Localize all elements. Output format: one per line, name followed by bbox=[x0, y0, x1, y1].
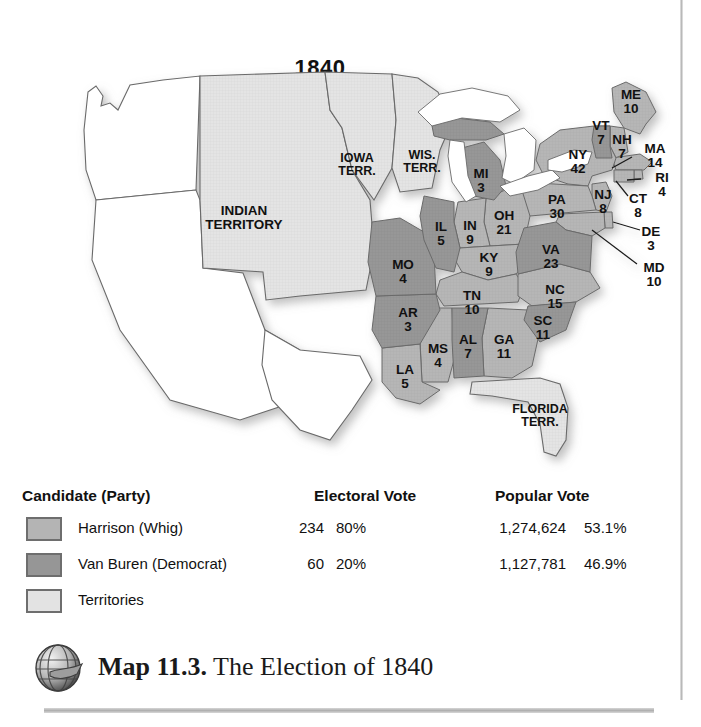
vanburen-swatch bbox=[26, 553, 62, 577]
state-TN bbox=[436, 272, 524, 306]
legend-header-candidate: Candidate (Party) bbox=[22, 487, 150, 505]
caption-label: Map 11.3. bbox=[98, 652, 207, 681]
harrison-swatch bbox=[26, 517, 62, 541]
legend-row-territories: Territories bbox=[22, 585, 682, 621]
election-map: 1840 bbox=[0, 0, 701, 485]
vanburen-electoral-pct: 20% bbox=[336, 555, 366, 572]
map-landmass bbox=[84, 72, 656, 456]
legend-header-row: Candidate (Party) Electoral Vote Popular… bbox=[22, 487, 682, 513]
state-VT bbox=[592, 126, 612, 158]
legend-header-popular: Popular Vote bbox=[495, 487, 589, 505]
harrison-popular-pct: 53.1% bbox=[584, 519, 627, 536]
state-ME bbox=[612, 82, 656, 134]
bottom-rule bbox=[44, 708, 654, 713]
map-graphic bbox=[0, 0, 701, 485]
harrison-electoral-votes: 234 bbox=[288, 519, 324, 536]
figure-page: 1840 bbox=[0, 0, 701, 727]
state-RI bbox=[634, 170, 643, 179]
harrison-popular-votes: 1,274,624 bbox=[474, 519, 566, 536]
harrison-name: Harrison (Whig) bbox=[78, 519, 183, 536]
region-texas-republic bbox=[262, 330, 372, 440]
state-IN bbox=[454, 198, 490, 248]
figure-caption: Map 11.3. The Election of 1840 bbox=[30, 638, 433, 696]
territories-name: Territories bbox=[78, 591, 144, 608]
vanburen-name: Van Buren (Democrat) bbox=[78, 555, 227, 572]
legend-row-vanburen: Van Buren (Democrat) 60 20% 1,127,781 46… bbox=[22, 549, 682, 585]
vanburen-electoral-votes: 60 bbox=[288, 555, 324, 572]
harrison-electoral-pct: 80% bbox=[336, 519, 366, 536]
vanburen-popular-pct: 46.9% bbox=[584, 555, 627, 572]
globe-icon bbox=[30, 638, 88, 696]
legend-header-electoral: Electoral Vote bbox=[314, 487, 416, 505]
territories-swatch bbox=[26, 589, 62, 613]
region-florida-territory bbox=[470, 378, 568, 456]
vanburen-popular-votes: 1,127,781 bbox=[474, 555, 566, 572]
caption-text: Map 11.3. The Election of 1840 bbox=[98, 652, 433, 682]
results-legend: Candidate (Party) Electoral Vote Popular… bbox=[22, 487, 682, 621]
region-oregon-country bbox=[84, 76, 200, 200]
state-AL bbox=[452, 308, 488, 378]
legend-row-harrison: Harrison (Whig) 234 80% 1,274,624 53.1% bbox=[22, 513, 682, 549]
caption-title: The Election of 1840 bbox=[213, 652, 433, 681]
